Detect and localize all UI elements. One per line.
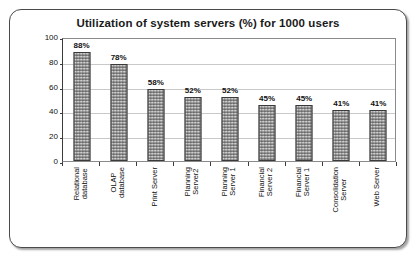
bars-layer: 88%78%58%52%52%45%45%41%41% [63, 39, 395, 161]
x-category-label: FinancialServer 2 [248, 167, 285, 233]
y-axis-labels: 020406080100 [38, 38, 58, 162]
x-tick-mark [136, 162, 137, 166]
bar[interactable] [184, 97, 201, 161]
bar[interactable] [370, 110, 387, 161]
plot-area: 88%78%58%52%52%45%45%41%41% [62, 38, 396, 162]
bar[interactable] [110, 64, 127, 161]
x-tick-mark [396, 162, 397, 166]
y-tick-mark [60, 89, 63, 90]
x-axis-labels: RelationaldatabaseOLAPdatabasePrint Serv… [62, 167, 396, 233]
x-tick-mark [99, 162, 100, 166]
bar-value-label: 41% [333, 100, 349, 108]
bar-value-label: 52% [185, 87, 201, 95]
bar-group[interactable]: 45% [286, 39, 323, 161]
y-tick-label: 20 [49, 133, 58, 141]
y-tick-mark [60, 138, 63, 139]
plot-wrapper: 020406080100 88%78%58%52%52%45%45%41%41%… [38, 38, 396, 234]
x-category-label: FinancialServer 1 [285, 167, 322, 233]
bar-value-label: 88% [74, 42, 90, 50]
x-tick-mark [210, 162, 211, 166]
bar-value-label: 41% [370, 100, 386, 108]
x-category-label-line: Server [340, 167, 348, 212]
y-tick-label: 40 [49, 108, 58, 116]
y-tick-label: 100 [45, 34, 58, 42]
x-category-label-line: database [81, 167, 89, 200]
x-category-label: ConsolidationServer [322, 167, 359, 233]
x-category-label-line: database [118, 167, 126, 198]
x-category-label-line: Server2 [192, 167, 200, 196]
x-category-label: Print Server [136, 167, 173, 233]
chart-title: Utilization of system servers (%) for 10… [10, 17, 406, 29]
x-tick-mark [248, 162, 249, 166]
bar-value-label: 52% [222, 87, 238, 95]
bar[interactable] [296, 105, 313, 161]
x-tick-mark [359, 162, 360, 166]
bar-group[interactable]: 41% [323, 39, 360, 161]
x-category-label-line: Server 1 [303, 167, 311, 197]
bar-group[interactable]: 41% [360, 39, 397, 161]
x-category-label: Web Server [359, 167, 396, 233]
x-category-label: OLAPdatabase [99, 167, 136, 233]
x-category-label: Relationaldatabase [62, 167, 99, 233]
chart-card: Utilization of system servers (%) for 10… [9, 9, 407, 248]
bar[interactable] [147, 89, 164, 161]
x-category-label-line: Web Server [373, 167, 381, 206]
bar-value-label: 78% [111, 54, 127, 62]
y-tick-mark [60, 113, 63, 114]
bar[interactable] [333, 110, 350, 161]
bar-group[interactable]: 52% [174, 39, 211, 161]
bar-value-label: 58% [148, 79, 164, 87]
y-tick-label: 60 [49, 84, 58, 92]
bar-group[interactable]: 88% [63, 39, 100, 161]
x-category-label: PlanningServer 1 [210, 167, 247, 233]
bar-group[interactable]: 58% [137, 39, 174, 161]
x-category-label-line: Server 1 [229, 167, 237, 196]
y-tick-mark [60, 39, 63, 40]
bar-group[interactable]: 52% [211, 39, 248, 161]
y-tick-label: 80 [49, 59, 58, 67]
x-axis-ticks [62, 162, 396, 166]
x-category-label-line: Server 2 [266, 167, 274, 197]
bar-group[interactable]: 78% [100, 39, 137, 161]
bar-value-label: 45% [296, 95, 312, 103]
bar[interactable] [73, 52, 90, 161]
y-tick-label: 0 [54, 158, 58, 166]
bar-value-label: 45% [259, 95, 275, 103]
x-tick-mark [62, 162, 63, 166]
bar[interactable] [259, 105, 276, 161]
bar[interactable] [221, 97, 238, 161]
x-tick-mark [285, 162, 286, 166]
y-tick-mark [60, 64, 63, 65]
x-category-label-line: Print Server [151, 167, 159, 207]
x-category-label: PlanningServer2 [173, 167, 210, 233]
x-tick-mark [322, 162, 323, 166]
x-tick-mark [173, 162, 174, 166]
bar-group[interactable]: 45% [249, 39, 286, 161]
